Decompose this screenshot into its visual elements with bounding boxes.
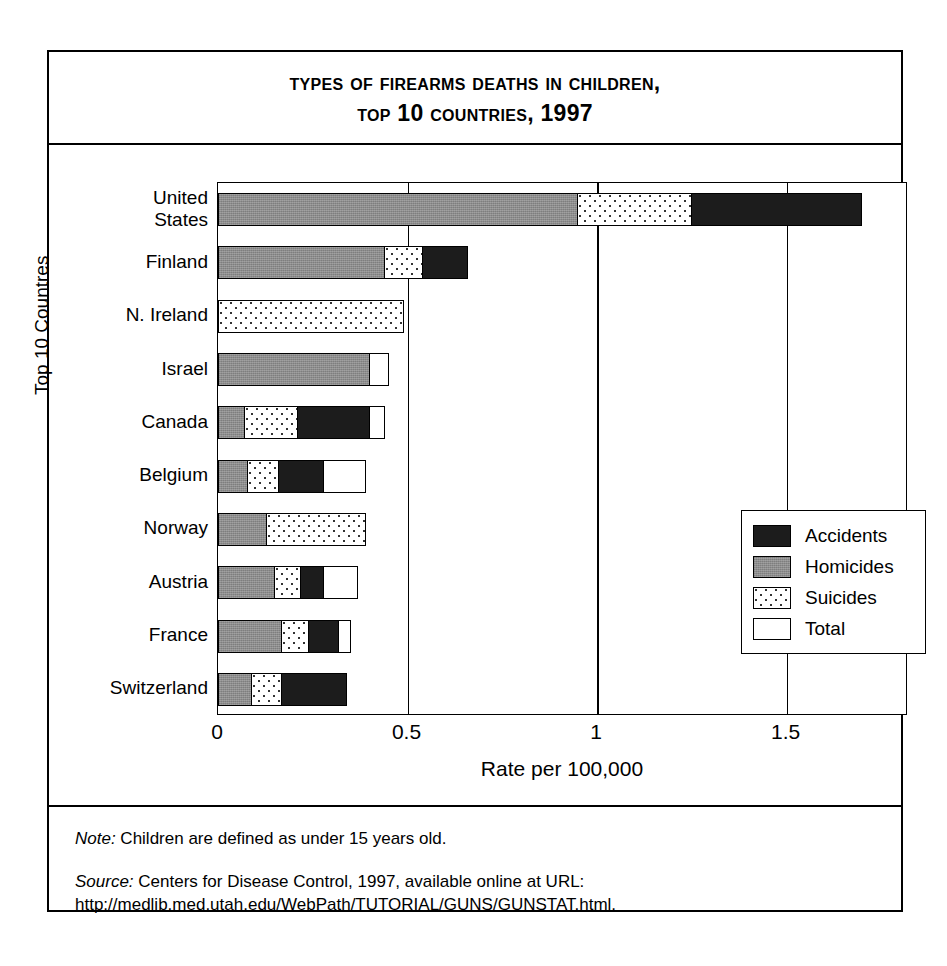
note-text: Children are defined as under 15 years o… — [116, 829, 447, 848]
chart-title-block: Types of Firearms Deaths in Children, To… — [49, 52, 901, 145]
bar-segment-accidents — [423, 246, 468, 279]
x-tick-label: 0.5 — [392, 720, 421, 744]
gray-swatch-icon — [753, 556, 791, 578]
bar-segment-homicides — [218, 460, 248, 493]
note-label: Note: — [75, 829, 116, 848]
bar-segment-suicides — [252, 673, 282, 706]
y-tick-label: N. Ireland — [57, 304, 217, 326]
bar-segment-accidents — [282, 673, 346, 706]
y-tick-label: Norway — [57, 517, 217, 539]
dotted-swatch-icon — [753, 587, 791, 609]
bar-row — [218, 353, 908, 386]
bar-row — [218, 460, 908, 493]
bar-row — [218, 673, 908, 706]
bar-segment-suicides — [245, 406, 298, 439]
source-text: Centers for Disease Control, 1997, avail… — [75, 872, 616, 914]
white-swatch-icon — [753, 618, 791, 640]
chart-title-line-2: Top 10 Countries, 1997 — [357, 98, 593, 129]
bar-segment-homicides — [218, 406, 245, 439]
bar-segment-homicides — [218, 513, 267, 546]
bar-segment-accidents — [279, 460, 324, 493]
black-swatch-icon — [753, 525, 791, 547]
bar-segment-accidents — [298, 406, 370, 439]
bar-segment-suicides — [385, 246, 423, 279]
bar-segment-suicides — [248, 460, 278, 493]
legend-label: Accidents — [805, 525, 887, 547]
legend-item: Suicides — [753, 582, 915, 613]
legend-item: Total — [753, 613, 915, 644]
y-tick-label: Belgium — [57, 464, 217, 486]
note-paragraph: Note: Children are defined as under 15 y… — [75, 827, 875, 850]
bar-segment-suicides — [218, 300, 404, 333]
bar-row — [218, 406, 908, 439]
y-tick-label: Canada — [57, 411, 217, 433]
y-tick-label: Switzerland — [57, 677, 217, 699]
x-tick-label: 0 — [211, 720, 223, 744]
x-tick-label: 1.5 — [771, 720, 800, 744]
y-tick-label: Israel — [57, 358, 217, 380]
y-tick-label: United States — [57, 187, 217, 231]
bar-segment-suicides — [275, 566, 302, 599]
bar-segment-homicides — [218, 193, 578, 226]
legend-item: Homicides — [753, 551, 915, 582]
x-tick-label: 1 — [590, 720, 602, 744]
bar-segment-suicides — [578, 193, 692, 226]
bar-segment-homicides — [218, 353, 370, 386]
bar-row — [218, 193, 908, 226]
figure-frame: Types of Firearms Deaths in Children, To… — [47, 50, 903, 912]
chart-title-line-1: Types of Firearms Deaths in Children, — [290, 67, 661, 98]
bar-segment-homicides — [218, 673, 252, 706]
bar-row — [218, 246, 908, 279]
bar-segment-accidents — [692, 193, 863, 226]
x-axis-title: Rate per 100,000 — [217, 757, 907, 781]
bar-segment-suicides — [267, 513, 366, 546]
plot-region: Top 10 Countres United StatesFinlandN. I… — [49, 145, 901, 805]
bar-segment-accidents — [301, 566, 324, 599]
source-label: Source: — [75, 872, 134, 891]
legend-label: Suicides — [805, 587, 877, 609]
legend-label: Homicides — [805, 556, 894, 578]
bar-segment-suicides — [282, 620, 309, 653]
footnotes: Note: Children are defined as under 15 y… — [49, 805, 901, 936]
y-tick-label: Finland — [57, 251, 217, 273]
bar-segment-accidents — [309, 620, 339, 653]
bar-row — [218, 300, 908, 333]
bar-segment-homicides — [218, 620, 282, 653]
y-tick-label: Austria — [57, 571, 217, 593]
bar-segment-homicides — [218, 246, 385, 279]
legend-item: Accidents — [753, 520, 915, 551]
chart-legend: AccidentsHomicidesSuicidesTotal — [741, 510, 926, 654]
bar-segment-homicides — [218, 566, 275, 599]
y-axis-title: Top 10 Countres — [31, 256, 53, 395]
y-tick-label: France — [57, 624, 217, 646]
source-paragraph: Source: Centers for Disease Control, 199… — [75, 870, 875, 916]
legend-label: Total — [805, 618, 845, 640]
